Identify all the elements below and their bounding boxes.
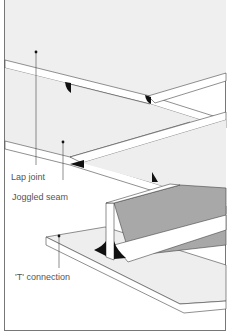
label-t-connection: 'T' connection (15, 272, 70, 282)
label-lap-joint: Lap joint (11, 172, 45, 182)
t-web-edge (106, 203, 114, 260)
label-joggled-seam: Joggled seam (12, 192, 68, 202)
weld-joints-illustration (0, 0, 228, 334)
